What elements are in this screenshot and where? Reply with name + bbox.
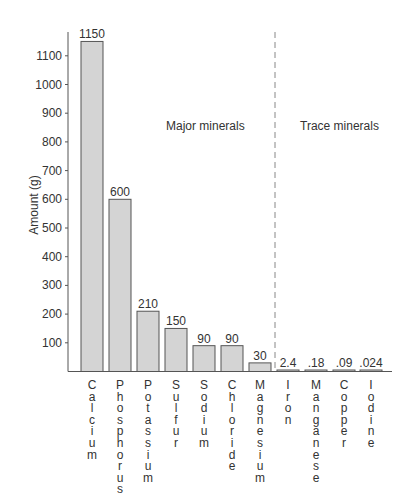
trace-minerals-label: Trace minerals (300, 119, 379, 133)
mineral-bar-chart: 10020030040050060070080090010001100 1150… (0, 0, 415, 502)
y-tick-label: 400 (42, 250, 62, 264)
y-tick-label: 100 (42, 336, 62, 350)
y-tick-label: 300 (42, 278, 62, 292)
category-label-magnesium: Magnesium (255, 378, 265, 485)
category-label-sodium: Sodium (199, 378, 209, 450)
y-axis-label: Amount (g) (27, 175, 41, 234)
major-minerals-label: Major minerals (166, 119, 245, 133)
value-label: .09 (336, 356, 353, 370)
category-label-copper: Copper (340, 378, 349, 450)
x-axis-labels: CalciumPhosphorusPotassiumSulfurSodiumCh… (87, 378, 375, 496)
bars: 11506002101509090302.4.18.09.024 (79, 27, 383, 371)
bar-chloride (221, 346, 243, 372)
bar-phosphorus (109, 199, 131, 371)
value-label: 2.4 (280, 356, 297, 370)
value-label: 1150 (79, 27, 105, 41)
value-label: 210 (138, 297, 158, 311)
bar-copper (333, 370, 355, 372)
bar-calcium (81, 41, 103, 371)
category-label-iron: Iron (285, 378, 292, 427)
bar-iodine (360, 370, 382, 372)
y-tick-label: 500 (42, 221, 62, 235)
category-label-manganese: Manganese (311, 378, 321, 485)
value-label: 150 (166, 314, 186, 328)
value-label: .18 (308, 356, 325, 370)
y-tick-label: 1100 (36, 49, 62, 63)
value-label: 600 (110, 185, 130, 199)
category-label-phosphorus: Phosphorus (116, 378, 124, 496)
value-label: 90 (225, 332, 239, 346)
category-label-sulfur: Sulfur (172, 378, 180, 450)
category-label-iodine: Iodine (368, 378, 375, 450)
value-label: 30 (253, 349, 267, 363)
value-label: .024 (359, 356, 383, 370)
bar-potassium (137, 311, 159, 371)
y-tick-label: 900 (42, 106, 62, 120)
y-tick-label: 600 (42, 192, 62, 206)
bar-iron (277, 370, 299, 372)
category-label-calcium: Calcium (87, 378, 97, 462)
bar-manganese (305, 370, 327, 372)
y-tick-label: 1000 (35, 78, 62, 92)
y-tick-label: 200 (42, 307, 62, 321)
value-label: 90 (197, 332, 211, 346)
y-tick-label: 800 (42, 135, 62, 149)
y-tick-label: 700 (42, 164, 62, 178)
bar-sulfur (165, 328, 187, 371)
bar-sodium (193, 346, 215, 372)
bar-magnesium (249, 363, 271, 372)
category-label-chloride: Chloride (228, 378, 237, 473)
category-label-potassium: Potassium (143, 378, 153, 485)
